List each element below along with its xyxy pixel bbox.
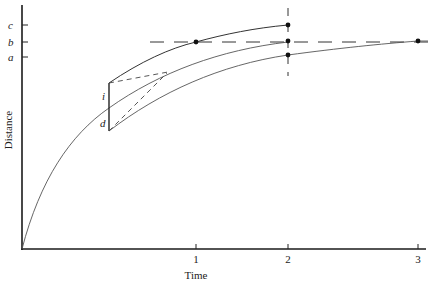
point-t1-b xyxy=(194,40,199,45)
point-t2-b xyxy=(286,39,291,44)
point-t2-a xyxy=(286,53,291,58)
y-label-c: c xyxy=(8,19,13,31)
point-t2-c xyxy=(286,23,291,28)
distance-time-diagram: c b a 1 2 3 Time Distance i d xyxy=(0,0,431,283)
x-tick-label-2: 2 xyxy=(285,253,291,265)
curve-lower-to-a xyxy=(109,41,428,131)
y-label-b: b xyxy=(8,36,14,48)
y-label-a: a xyxy=(8,51,14,63)
x-tick-label-1: 1 xyxy=(193,253,199,265)
point-t3-b xyxy=(416,39,421,44)
label-d: d xyxy=(100,117,106,129)
label-i: i xyxy=(102,90,105,102)
curve-upper-to-c xyxy=(109,25,288,83)
y-axis-title: Distance xyxy=(2,111,14,150)
x-axis-title: Time xyxy=(185,269,208,281)
curve-origin-to-b xyxy=(22,42,288,249)
x-tick-label-3: 3 xyxy=(415,253,421,265)
